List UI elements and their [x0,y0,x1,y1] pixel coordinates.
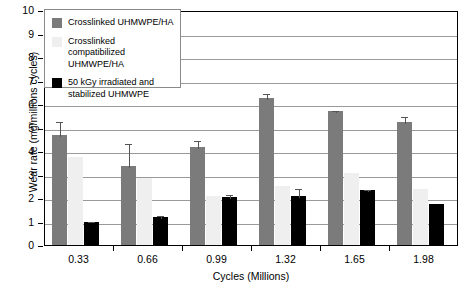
y-axis-tick-label: 1 [16,217,34,228]
legend-swatch-light-gray-icon [52,37,62,47]
chart-legend: Crosslinked UHMWPE/HA Crosslinked compat… [44,9,181,88]
bar-group [183,12,252,245]
y-axis-tick-label: 3 [16,170,34,181]
error-bar [129,144,130,169]
bar [121,166,136,245]
y-axis-tick-mark [38,11,43,12]
y-axis-tick-label: 5 [16,123,34,134]
bar [360,190,375,245]
y-axis-tick-mark [38,35,43,36]
x-axis-tick-mark [320,246,321,251]
legend-label: 50 kGy irradiated and stabilized UHMWPE [68,77,174,100]
x-axis-tick-label: 0.33 [44,253,114,265]
y-axis-tick-label: 4 [16,146,34,157]
y-axis-tick-mark [38,105,43,106]
bar [413,189,428,245]
x-axis-tick-mark [251,246,252,251]
bar [328,111,343,245]
y-axis-tick-mark [38,82,43,83]
x-axis-tick-label: 0.66 [113,253,183,265]
bar [84,222,99,246]
y-axis-tick-mark [38,223,43,224]
y-axis-tick-label: 8 [16,52,34,63]
wear-rate-bar-chart: Wear rate (mg/millions cycles) 012345678… [0,0,476,288]
legend-swatch-dark-gray-icon [52,18,62,28]
x-axis-tick-label: 1.65 [320,253,390,265]
legend-item-50-kgy-irradiated-stabilized-uhmwpe: 50 kGy irradiated and stabilized UHMWPE [52,77,174,100]
x-axis-title: Cycles (Millions) [44,270,458,282]
y-axis-tick-label: 9 [16,29,34,40]
x-axis-tick-label: 1.32 [251,253,321,265]
x-axis-tick-mark [389,246,390,251]
legend-label: Crosslinked UHMWPE/HA [68,17,174,29]
y-axis-tick-label: 6 [16,99,34,110]
legend-swatch-black-icon [52,78,62,88]
y-axis-tick-label: 2 [16,193,34,204]
y-axis-tick-label: 10 [16,5,34,16]
bar [153,217,168,245]
error-bar-cap [157,216,164,217]
error-bar-cap [56,122,63,123]
bar-group [252,12,321,245]
error-bar [299,189,300,197]
bar [344,173,359,245]
bar [68,157,83,245]
error-bar-cap [88,222,95,223]
bar [291,196,306,245]
legend-label: Crosslinked compatibilized UHMWPE/HA [68,36,174,71]
bar [206,196,221,245]
y-axis-tick-mark [38,152,43,153]
bar [397,122,412,245]
y-axis-tick-label: 7 [16,76,34,87]
bar-group [390,12,459,245]
y-axis-tick-labels: 012345678910 [14,0,34,288]
y-axis-tick-mark [38,199,43,200]
x-axis-tick-mark [182,246,183,251]
y-axis-tick-mark [38,176,43,177]
bar [275,186,290,245]
error-bar-cap [401,117,408,118]
bar [259,98,274,245]
bar [52,135,67,245]
bar [137,178,152,245]
error-bar-cap [125,144,132,145]
x-axis-tick-label: 0.99 [182,253,252,265]
error-bar [60,122,61,136]
x-axis-tick-label: 1.98 [389,253,459,265]
bar-group [321,12,390,245]
bar [190,147,205,245]
error-bar [198,141,199,149]
y-axis-tick-mark [38,246,43,247]
legend-item-crosslinked-compatibilized-uhmwpe-ha: Crosslinked compatibilized UHMWPE/HA [52,36,174,71]
error-bar-cap [295,189,302,190]
legend-item-crosslinked-uhmwpe-ha: Crosslinked UHMWPE/HA [52,17,174,29]
y-axis-tick-mark [38,58,43,59]
error-bar-cap [364,190,371,191]
x-axis-tick-mark [113,246,114,251]
error-bar-cap [226,195,233,196]
error-bar-cap [332,111,339,112]
bar [429,204,444,245]
error-bar-cap [263,94,270,95]
error-bar [405,117,406,124]
y-axis-tick-label: 0 [16,240,34,251]
error-bar-cap [194,141,201,142]
bar [222,197,237,245]
y-axis-tick-mark [38,129,43,130]
